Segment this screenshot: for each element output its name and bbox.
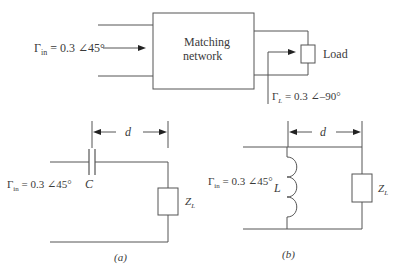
wire-bottom: [50, 215, 168, 242]
capacitor-label: C: [85, 177, 94, 191]
gamma-in-label-b: Γin = 0.3 ∠45°: [208, 175, 273, 190]
gamma-in-label-a: Γin = 0.3 ∠45°: [7, 178, 72, 193]
circuit-b-shunt-inductor: d L Γin = 0.3 ∠45° ZL (b): [208, 121, 388, 261]
gamma-l-label: ΓL = 0.3 ∠–90°: [272, 90, 341, 105]
arrow-left-icon: [93, 129, 101, 135]
matching-network-label-line2: network: [183, 49, 222, 63]
load-resistor-box: [301, 45, 315, 63]
wire-top-right: [95, 162, 168, 188]
arrow-right-icon: [353, 129, 361, 135]
caption-b: (b): [282, 248, 295, 261]
circuit-a-series-capacitor: d C Γin = 0.3 ∠45° ZL (a): [7, 121, 195, 264]
arrow-right-icon: [138, 45, 146, 51]
load-impedance-box: [158, 188, 178, 215]
caption-a: (a): [114, 251, 127, 264]
load-impedance-label: ZL: [378, 182, 388, 197]
output-line-top: [254, 31, 308, 45]
output-line-bottom: [254, 63, 308, 75]
arrow-right-icon: [159, 129, 167, 135]
matching-network-diagram: Γin = 0.3 ∠45° Matching network Load ΓL …: [0, 0, 396, 276]
arrow-left-icon: [289, 129, 297, 135]
top-matching-network-figure: Γin = 0.3 ∠45° Matching network Load ΓL …: [34, 13, 348, 105]
load-impedance-label: ZL: [185, 195, 195, 210]
inductor-coil: [287, 147, 297, 229]
arrow-right-icon: [288, 49, 296, 55]
distance-label-d: d: [320, 125, 327, 139]
matching-network-label-line1: Matching: [184, 35, 230, 49]
inductor-label: L: [273, 181, 281, 195]
load-impedance-box: [352, 174, 372, 202]
distance-label-d: d: [125, 125, 132, 139]
gamma-in-label-top: Γin = 0.3 ∠45°: [34, 41, 105, 57]
load-label: Load: [323, 47, 348, 61]
